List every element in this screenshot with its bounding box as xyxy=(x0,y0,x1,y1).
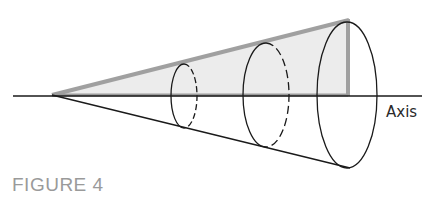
cone-lower-edge xyxy=(52,95,350,168)
cone-of-revolution-diagram: Axis xyxy=(0,0,433,199)
axis-label: Axis xyxy=(386,103,417,121)
figure-caption: FIGURE 4 xyxy=(12,174,104,196)
